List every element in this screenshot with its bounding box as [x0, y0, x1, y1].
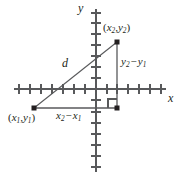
distance-label: d	[62, 57, 68, 69]
horizontal-leg-x2-subscript: 2	[61, 115, 65, 123]
hypotenuse-segment	[34, 42, 117, 108]
distance-formula-diagram: y x (x2,y2) (x1,y1) d y2−y1 x2−x1	[0, 0, 182, 178]
point-2-dot	[115, 40, 120, 45]
point-1-close-paren: )	[31, 111, 35, 123]
x-axis-label: x	[168, 92, 173, 104]
point-2-close-paren: )	[126, 21, 130, 33]
triangle-group	[34, 42, 117, 108]
coordinate-plane-graphic	[0, 0, 182, 178]
point-1-dot	[32, 106, 37, 111]
y-axis-label: y	[78, 2, 83, 14]
point-2-label: (x2,y2)	[103, 22, 130, 35]
vertical-leg-minus-sign: −	[130, 55, 138, 67]
vertical-leg-y2-subscript: 2	[126, 61, 130, 69]
vertical-leg-y1-subscript: 1	[143, 61, 147, 69]
horizontal-leg-label: x2−x1	[56, 110, 81, 123]
axes-group	[14, 9, 166, 172]
vertical-leg-label: y2−y1	[121, 56, 146, 69]
horizontal-leg-minus-sign: −	[65, 109, 73, 121]
right-angle-vertex-dot	[115, 106, 120, 111]
point-1-label: (x1,y1)	[8, 112, 35, 125]
horizontal-leg-x1-subscript: 1	[78, 115, 82, 123]
